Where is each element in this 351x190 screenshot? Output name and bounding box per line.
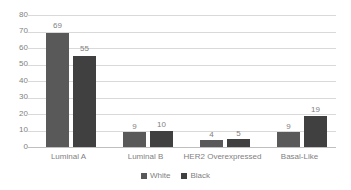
axis-baseline: [27, 147, 336, 148]
data-label-black-luminal-b: 10: [150, 121, 173, 129]
x-category-label-luminal-a: Luminal A: [29, 152, 108, 161]
y-tick-label: 50: [8, 60, 28, 68]
chart-legend: White Black: [0, 171, 351, 180]
bar-white-luminal-a[interactable]: [46, 33, 69, 147]
data-label-white-basal-like: 9: [277, 123, 300, 131]
y-tick-label: 80: [8, 11, 28, 19]
data-label-white-her2-overexpressed: 4: [200, 131, 223, 139]
legend-label-black: Black: [190, 171, 210, 180]
y-tick-label: 20: [8, 110, 28, 118]
y-tick-label: 0: [8, 143, 28, 151]
bar-black-her2-overexpressed[interactable]: [227, 139, 250, 147]
y-tick-label: 70: [8, 27, 28, 35]
x-category-label-her2-overexpressed: HER2 Overexpressed: [183, 152, 262, 161]
bar-black-basal-like[interactable]: [304, 116, 327, 147]
legend-swatch-white-icon: [141, 173, 147, 179]
bar-black-luminal-a[interactable]: [73, 56, 96, 147]
data-label-black-luminal-a: 55: [73, 45, 96, 53]
bar-white-luminal-b[interactable]: [123, 132, 146, 147]
y-tick-label: 30: [8, 93, 28, 101]
x-category-label-basal-like: Basal-Like: [260, 152, 339, 161]
gridline: [27, 15, 336, 16]
legend-entry-black[interactable]: Black: [181, 171, 210, 180]
data-label-black-her2-overexpressed: 5: [227, 130, 250, 138]
bar-white-basal-like[interactable]: [277, 132, 300, 147]
bar-white-her2-overexpressed[interactable]: [200, 140, 223, 147]
data-label-white-luminal-b: 9: [123, 123, 146, 131]
legend-entry-white[interactable]: White: [141, 171, 170, 180]
y-tick-label: 40: [8, 77, 28, 85]
y-tick-label: 10: [8, 126, 28, 134]
bar-black-luminal-b[interactable]: [150, 131, 173, 148]
data-label-white-luminal-a: 69: [46, 22, 69, 30]
legend-label-white: White: [150, 171, 170, 180]
x-category-label-luminal-b: Luminal B: [106, 152, 185, 161]
bar-chart: 80 70 60 50 40 30 20 10 0 69 55: [0, 0, 351, 190]
legend-swatch-black-icon: [181, 173, 187, 179]
gridline: [27, 32, 336, 33]
data-label-black-basal-like: 19: [304, 106, 327, 114]
y-tick-label: 60: [8, 44, 28, 52]
